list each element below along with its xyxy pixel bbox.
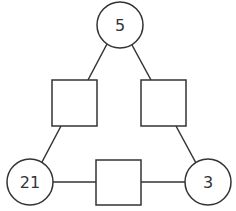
- answer-box-left[interactable]: [52, 80, 97, 126]
- triangle-diagram: 5 21 3: [0, 0, 236, 211]
- circle-node-bottom-left: 21: [7, 159, 53, 205]
- edge-top-to-right-box: [132, 45, 151, 80]
- circle-node-bottom-right: 3: [185, 159, 231, 205]
- answer-box-bottom[interactable]: [96, 160, 141, 205]
- edge-right-box-to-bottom-right: [176, 126, 196, 163]
- edge-top-to-left-box: [88, 44, 107, 80]
- circle-label-bottom-right: 3: [203, 173, 213, 192]
- edge-left-box-to-bottom-left: [42, 126, 61, 162]
- circle-label-bottom-left: 21: [20, 173, 40, 192]
- circle-label-top: 5: [115, 16, 125, 35]
- answer-box-right[interactable]: [141, 80, 186, 126]
- circle-node-top: 5: [97, 2, 143, 48]
